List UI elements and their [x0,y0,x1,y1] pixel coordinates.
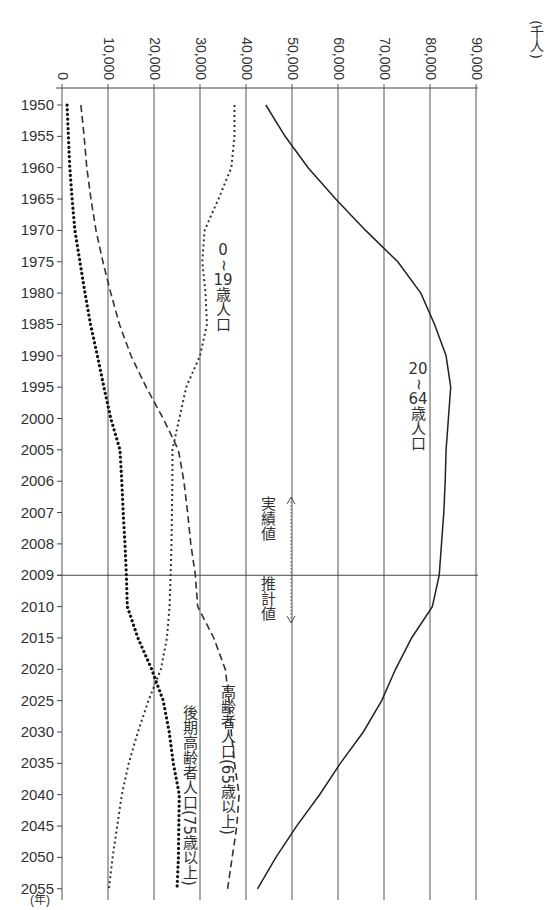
year-tick-label: 2007 [21,504,54,521]
value-tick-label: 80,000 [423,37,439,80]
year-tick-label: 2030 [21,723,54,740]
year-tick-label: 2035 [21,754,54,771]
year-tick-label: 1990 [21,347,54,364]
label-tilde: ~ [411,374,426,396]
year-tick-label: 1985 [21,315,54,332]
year-tick-label: 1950 [21,96,54,113]
year-tick-label: 1965 [21,190,54,207]
year-tick-label: 1980 [21,284,54,301]
year-tick-label: 2008 [21,535,54,552]
annotation-actual: 実績値 [259,496,275,541]
year-tick-label: 1955 [21,127,54,144]
series-label-20-64: 20 ~ 64 歳 人 口 [407,362,429,452]
series-line-3 [67,105,179,889]
value-tick-label: 0 [55,72,71,80]
year-tick-label: 2000 [21,410,54,427]
value-tick-label: 50,000 [285,37,301,80]
year-tick-label: 1960 [21,159,54,176]
label-kou: 口 [213,318,233,333]
value-tick-label: 60,000 [331,37,347,80]
value-tick-label: 70,000 [377,37,393,80]
value-tick-label: 90,000 [469,37,485,80]
year-unit-label: (年) [30,890,50,907]
series-label-0-19: 0 ~ 19 歳 人 口 [213,243,233,333]
year-tick-label: 2005 [21,441,54,458]
year-tick-label: 2045 [21,817,54,834]
annotation-projected: 推計値 [259,576,275,621]
year-tick-label: 1970 [21,221,54,238]
series-label-65-plus: 高齢者人口(65歳以上) [219,684,235,835]
value-tick-label: 10,000 [101,37,117,80]
series-line-1 [109,105,235,889]
year-tick-label: 2020 [21,660,54,677]
series-line-0 [258,105,451,889]
series-label-75-plus: 後期高齢者人口(75歳以上) [181,705,197,886]
year-tick-label: 2010 [21,598,54,615]
series-line-2 [81,105,239,889]
unit-label: (千人) [528,20,544,59]
year-tick-label: 1975 [21,253,54,270]
year-tick-label: 1995 [21,378,54,395]
year-tick-label: 2009 [21,566,54,583]
label-tilde: ~ [216,256,231,276]
value-tick-label: 30,000 [193,37,209,80]
value-tick-label: 40,000 [239,37,255,80]
year-tick-label: 2015 [21,629,54,646]
value-tick-label: 20,000 [147,37,163,80]
year-tick-label: 2050 [21,848,54,865]
year-tick-label: 2025 [21,692,54,709]
label-kou: 口 [407,437,429,452]
year-tick-label: 2040 [21,786,54,803]
year-tick-label: 2006 [21,472,54,489]
